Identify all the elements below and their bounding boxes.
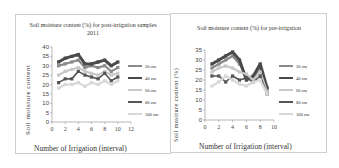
svg-text:10: 10: [42, 100, 49, 106]
legend-label: 60 cm: [145, 88, 156, 93]
svg-text:0: 0: [51, 126, 54, 132]
legend-swatch: [128, 101, 142, 103]
legend-swatch: [128, 65, 142, 67]
legend-swatch: [279, 77, 293, 79]
legend-label: 100 cm: [145, 112, 158, 117]
svg-text:4: 4: [77, 126, 80, 132]
pre-irrigation-chart: Soil moisture content (%) for pre-irriga…: [170, 13, 327, 153]
svg-text:20: 20: [195, 77, 202, 83]
legend-label: 20 cm: [296, 64, 307, 69]
chart-legend: 20 cm40 cm60 cm80 cm100 cm: [279, 60, 309, 120]
svg-text:0: 0: [199, 117, 203, 123]
legend-item: 80 cm: [128, 96, 158, 108]
svg-text:12: 12: [128, 126, 134, 132]
legend-label: 20 cm: [145, 64, 156, 69]
legend-item: 60 cm: [128, 84, 158, 96]
legend-swatch: [128, 77, 142, 79]
svg-text:15: 15: [42, 91, 49, 97]
svg-text:2: 2: [217, 124, 220, 130]
legend-item: 60 cm: [279, 84, 309, 96]
legend-label: 80 cm: [145, 100, 156, 105]
svg-text:30: 30: [42, 63, 49, 69]
x-axis-label: Number of Irrigation (interval): [199, 142, 292, 151]
legend-swatch: [279, 101, 293, 103]
svg-text:40: 40: [42, 44, 49, 50]
svg-text:6: 6: [90, 126, 93, 132]
legend-swatch: [279, 89, 293, 91]
legend-label: 40 cm: [296, 76, 307, 81]
svg-text:10: 10: [195, 97, 202, 103]
post-irrigation-chart: Soil moisture content (%) for post-irrig…: [15, 14, 171, 154]
legend-label: 80 cm: [296, 100, 307, 105]
legend-item: 20 cm: [279, 60, 309, 72]
chart-legend: 20 cm40 cm60 cm80 cm100 cm: [128, 60, 158, 120]
svg-text:0: 0: [204, 124, 207, 130]
svg-text:25: 25: [195, 67, 202, 73]
svg-text:15: 15: [195, 87, 202, 93]
legend-item: 40 cm: [279, 72, 309, 84]
svg-text:4: 4: [231, 124, 234, 130]
legend-swatch: [128, 89, 142, 91]
y-axis-label: Soil moisture content: [24, 65, 32, 135]
legend-label: 40 cm: [145, 76, 156, 81]
y-axis-label: Soil mositure content (%): [173, 68, 179, 142]
svg-text:25: 25: [42, 72, 49, 78]
svg-text:20: 20: [42, 82, 49, 88]
svg-text:35: 35: [195, 47, 202, 53]
svg-text:8: 8: [103, 126, 106, 132]
legend-item: 20 cm: [128, 60, 158, 72]
svg-text:6: 6: [245, 124, 248, 130]
svg-text:10: 10: [115, 126, 121, 132]
legend-item: 100 cm: [279, 108, 309, 120]
svg-text:10: 10: [271, 124, 277, 130]
legend-label: 60 cm: [296, 88, 307, 93]
svg-text:30: 30: [195, 57, 202, 63]
svg-text:35: 35: [42, 53, 49, 59]
svg-text:2: 2: [64, 126, 67, 132]
legend-swatch: [279, 65, 293, 67]
legend-swatch: [128, 113, 142, 115]
svg-text:5: 5: [46, 110, 50, 116]
legend-item: 40 cm: [128, 72, 158, 84]
legend-swatch: [279, 113, 293, 115]
legend-label: 100 cm: [296, 112, 309, 117]
svg-text:0: 0: [46, 119, 50, 125]
svg-text:5: 5: [199, 107, 203, 113]
legend-item: 80 cm: [279, 96, 309, 108]
svg-text:8: 8: [259, 124, 262, 130]
x-axis-label: Number of Irrigation (interval): [34, 144, 127, 153]
legend-item: 100 cm: [128, 108, 158, 120]
